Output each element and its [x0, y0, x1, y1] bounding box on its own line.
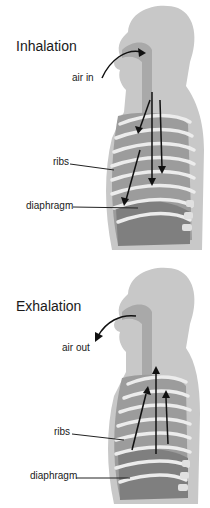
ribs-label: ribs — [53, 156, 69, 167]
air-in-label: air in — [72, 72, 94, 83]
inhalation-title: Inhalation — [16, 38, 77, 54]
ribs-label: ribs — [54, 426, 70, 437]
air-out-label: air out — [62, 342, 90, 353]
diaphragm-label: diaphragm — [30, 470, 77, 481]
inhalation-panel: Inhalation air in ribs diaphragm — [0, 0, 210, 254]
exhalation-title: Exhalation — [16, 298, 81, 314]
exhalation-panel: Exhalation air out ribs diaphragm — [0, 254, 210, 508]
diaphragm-label: diaphragm — [26, 200, 73, 211]
